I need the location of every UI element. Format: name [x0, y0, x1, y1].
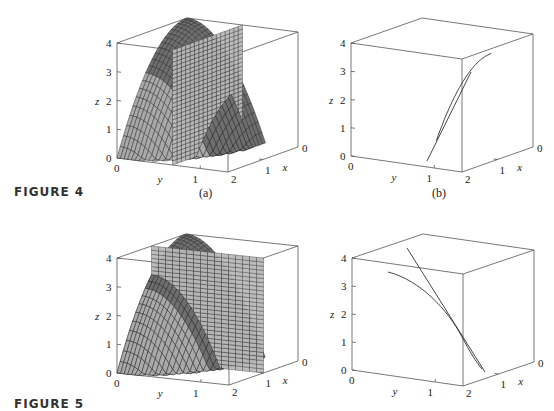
svg-text:2: 2 — [340, 94, 346, 106]
svg-text:0: 0 — [341, 364, 347, 376]
plot-4a: 01234z012y10x — [94, 18, 308, 185]
svg-text:x: x — [282, 374, 288, 386]
svg-text:1: 1 — [501, 378, 507, 390]
svg-text:1: 1 — [265, 164, 271, 176]
svg-text:0: 0 — [106, 367, 112, 379]
svg-text:z: z — [94, 95, 100, 107]
trace-curve — [436, 53, 491, 140]
trace-curve — [388, 272, 482, 369]
figures-canvas: 01234z012y10x01234z012y10x01234z012y10x0… — [0, 0, 554, 411]
svg-text:0: 0 — [302, 356, 308, 368]
svg-text:4: 4 — [106, 252, 112, 264]
svg-text:0: 0 — [537, 142, 543, 154]
tangent-line — [427, 72, 471, 161]
svg-text:2: 2 — [106, 95, 112, 107]
svg-text:1: 1 — [340, 122, 346, 134]
svg-text:y: y — [156, 173, 162, 185]
svg-text:4: 4 — [340, 37, 346, 49]
svg-text:x: x — [516, 161, 522, 173]
svg-text:2: 2 — [106, 310, 112, 322]
svg-text:1: 1 — [341, 336, 347, 348]
svg-text:4: 4 — [106, 37, 112, 49]
svg-text:z: z — [329, 308, 335, 320]
svg-text:z: z — [94, 310, 100, 322]
svg-text:4: 4 — [341, 252, 347, 264]
svg-text:2: 2 — [232, 386, 238, 398]
svg-text:x: x — [282, 161, 288, 173]
svg-text:1: 1 — [428, 386, 434, 398]
svg-text:1: 1 — [500, 164, 506, 176]
plot-4b: 01234z012y10x — [328, 18, 543, 185]
svg-text:0: 0 — [106, 152, 112, 164]
svg-text:2: 2 — [465, 173, 471, 185]
svg-text:0: 0 — [302, 142, 308, 154]
svg-text:0: 0 — [340, 150, 346, 162]
svg-text:1: 1 — [106, 338, 112, 350]
svg-text:3: 3 — [106, 66, 112, 78]
plot-5b: 01234z012y10x — [329, 234, 544, 399]
svg-text:1: 1 — [266, 377, 272, 389]
svg-text:0: 0 — [114, 377, 120, 389]
svg-text:y: y — [391, 385, 397, 397]
svg-text:2: 2 — [341, 308, 347, 320]
svg-text:3: 3 — [341, 280, 347, 292]
svg-text:x: x — [517, 375, 523, 387]
svg-text:z: z — [328, 94, 334, 106]
plot-5a: 01234z012y10x — [94, 234, 308, 399]
svg-text:1: 1 — [106, 123, 112, 135]
svg-text:3: 3 — [106, 281, 112, 293]
svg-text:0: 0 — [538, 357, 544, 369]
svg-text:0: 0 — [114, 162, 120, 174]
tangent-line — [407, 248, 485, 372]
svg-text:y: y — [390, 171, 396, 183]
svg-text:1: 1 — [193, 387, 199, 399]
svg-text:y: y — [157, 387, 163, 399]
svg-text:3: 3 — [340, 65, 346, 77]
svg-text:1: 1 — [193, 173, 199, 185]
svg-text:0: 0 — [349, 374, 355, 386]
svg-text:1: 1 — [427, 172, 433, 184]
svg-text:0: 0 — [348, 160, 354, 172]
svg-text:2: 2 — [231, 173, 237, 185]
svg-text:2: 2 — [466, 387, 472, 399]
